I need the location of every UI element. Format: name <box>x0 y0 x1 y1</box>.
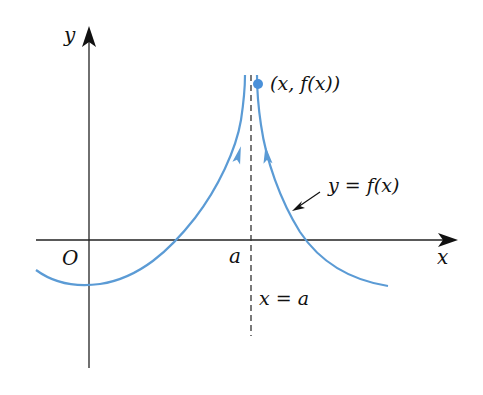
curve-pointer-arrow-icon <box>292 201 305 211</box>
curve-label: y = f(x) <box>327 174 399 196</box>
point-marker <box>253 79 263 89</box>
x-axis <box>36 233 458 247</box>
point-label: (x, f(x)) <box>270 72 340 94</box>
a-tick-label: a <box>229 244 241 268</box>
curve-pointer-line <box>298 192 320 207</box>
function-graph: y x O a x = a y = f(x) (x, f(x)) <box>0 0 483 395</box>
origin-label: O <box>62 246 78 270</box>
y-axis-label: y <box>63 23 76 47</box>
x-axis-label: x <box>437 245 448 269</box>
asymptote-label: x = a <box>259 287 309 309</box>
y-axis <box>82 26 96 368</box>
